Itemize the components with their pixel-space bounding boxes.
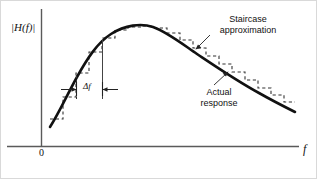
actual-response-curve bbox=[50, 25, 295, 127]
staircase-label-line2: approximation bbox=[200, 25, 296, 36]
staircase-approximation-label: Staircase approximation bbox=[200, 14, 296, 36]
staircase-approximation-curve bbox=[50, 26, 295, 119]
delta-f-label: Δf bbox=[83, 81, 91, 91]
staircase-leader-arrowhead bbox=[195, 45, 201, 50]
delta-f-right-arrowhead bbox=[103, 87, 108, 91]
actual-label-line1: Actual bbox=[189, 87, 249, 98]
origin-label: 0 bbox=[39, 147, 44, 158]
actual-label-line2: response bbox=[189, 98, 249, 109]
staircase-label-line1: Staircase bbox=[200, 14, 296, 25]
figure-frequency-response: |H(f)| f 0 Δf Staircase approximation Ac… bbox=[0, 0, 317, 179]
actual-response-label: Actual response bbox=[189, 87, 249, 109]
x-axis-label: f bbox=[303, 142, 306, 157]
y-axis-label: |H(f)| bbox=[11, 21, 35, 33]
callout-leaders bbox=[195, 35, 228, 85]
